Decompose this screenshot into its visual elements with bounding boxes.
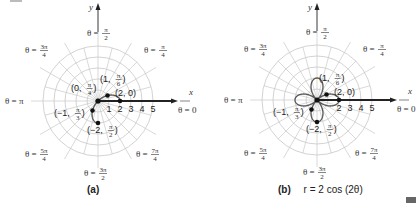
angle-label-3pi-over-2-denominator: 2 bbox=[320, 173, 324, 181]
axis-tick-4: 4 bbox=[139, 104, 144, 114]
point-label-r: (0, bbox=[71, 83, 82, 93]
angle-label-pi-over-4: θ =π4 bbox=[144, 43, 167, 59]
origin-point bbox=[95, 98, 100, 103]
point-label: (2, 0) bbox=[334, 87, 355, 97]
point-label-text: (2, 0) bbox=[334, 87, 355, 97]
angle-label-pi-over-2: θ =π2 bbox=[87, 26, 110, 42]
point-label-r: (−2, bbox=[87, 125, 103, 135]
angle-label-5pi-over-4-denominator: 4 bbox=[42, 155, 46, 163]
point-label-close: ) bbox=[82, 108, 85, 118]
angle-label-7pi-over-4: θ =7π4 bbox=[136, 147, 159, 163]
angle-label-3pi-over-4-numerator: 3π bbox=[40, 43, 48, 51]
point-label-r: (−2, bbox=[306, 124, 322, 134]
point-label-den: 2 bbox=[328, 130, 332, 138]
point-label-num: π bbox=[109, 123, 113, 131]
angle-label-7pi-over-4: θ =7π4 bbox=[355, 146, 378, 162]
angle-label-7pi-over-4-numerator: 7π bbox=[151, 147, 159, 155]
angle-label-7pi-over-4-numerator: 7π bbox=[370, 146, 378, 154]
panel-b-caption-letter: (b) bbox=[278, 184, 291, 195]
point-label-den: 6 bbox=[117, 80, 121, 88]
angle-label-3pi-over-2: θ =3π2 bbox=[303, 165, 326, 181]
point-label-close: ) bbox=[301, 107, 304, 117]
point-label-num: π bbox=[88, 81, 92, 89]
angle-label-pi-over-2-numerator: π bbox=[104, 26, 108, 34]
plotted-point bbox=[337, 98, 342, 103]
point-label-text: (2, 0) bbox=[115, 88, 136, 98]
plotted-point bbox=[90, 108, 95, 113]
angle-label-3pi-over-4-numerator: 3π bbox=[259, 42, 267, 50]
point-label-close: ) bbox=[94, 83, 97, 93]
corner-marker bbox=[406, 197, 416, 203]
point-label-num: π bbox=[336, 71, 340, 79]
angle-label-3pi-over-2-denominator: 2 bbox=[101, 174, 105, 182]
angle-label-5pi-over-4-numerator: 5π bbox=[40, 147, 48, 155]
angle-label-pi-over-4-denominator: 4 bbox=[380, 50, 384, 58]
angle-label-5pi-over-4-numerator: 5π bbox=[259, 146, 267, 154]
point-label: (−2,π2) bbox=[306, 122, 337, 138]
angle-label-7pi-over-4-denominator: 4 bbox=[372, 154, 376, 162]
point-label-den: 3 bbox=[295, 113, 299, 121]
point-label: (−2,π2) bbox=[87, 123, 118, 139]
point-label-r: (1, bbox=[100, 74, 111, 84]
angle-label-5pi-over-4-text: θ = bbox=[25, 149, 37, 159]
y-axis-arrow-icon bbox=[96, 3, 101, 10]
point-label: (1,π6) bbox=[100, 72, 126, 88]
angle-label-pi-over-2-numerator: π bbox=[323, 25, 327, 33]
angle-label-3pi-over-4-denominator: 4 bbox=[261, 50, 265, 58]
polar-axis-arrow-icon bbox=[390, 98, 397, 103]
angle-label-pi: θ = π bbox=[224, 95, 243, 105]
y-axis-arrow-icon bbox=[315, 3, 320, 10]
polar-axis-arrow-icon bbox=[171, 99, 178, 104]
point-label-r: (−1, bbox=[54, 108, 70, 118]
polar-figure: yxθ = 012345θ =π2θ =π4θ =3π4θ = πθ =5π4θ… bbox=[0, 0, 418, 207]
point-label-close: ) bbox=[123, 74, 126, 84]
angle-label-3pi-over-4-text: θ = bbox=[25, 45, 37, 55]
y-axis-label: y bbox=[307, 2, 312, 12]
panel-b-polar-grid: yxθ = 02345θ =π2θ =π4θ =3π4θ = πθ =5π4θ … bbox=[224, 2, 416, 181]
axis-tick-5: 5 bbox=[150, 104, 155, 114]
angle-label-3pi-over-4-text: θ = bbox=[244, 44, 256, 54]
panel-b-caption-equation: r = 2 cos (2θ) bbox=[304, 184, 363, 195]
angle-label-3pi-over-4: θ =3π4 bbox=[25, 43, 48, 59]
angle-label-pi-over-4-text: θ = bbox=[144, 45, 156, 55]
angle-label-3pi-over-4: θ =3π4 bbox=[244, 42, 267, 58]
angle-label-pi-over-2-text: θ = bbox=[306, 27, 318, 37]
angle-label-pi-over-4: θ =π4 bbox=[363, 42, 386, 58]
angle-label-5pi-over-4-denominator: 4 bbox=[261, 154, 265, 162]
angle-label-pi-over-4-denominator: 4 bbox=[161, 51, 165, 59]
angle-label-5pi-over-4: θ =5π4 bbox=[25, 147, 48, 163]
point-label-close: ) bbox=[342, 73, 345, 83]
axis-tick-5: 5 bbox=[369, 103, 374, 113]
angle-label-pi-over-2-text: θ = bbox=[87, 28, 99, 38]
angle-label-pi-over-4-text: θ = bbox=[363, 44, 375, 54]
axis-tick-1: 1 bbox=[106, 104, 111, 114]
angle-label-5pi-over-4: θ =5π4 bbox=[244, 146, 267, 162]
cropped-text-fragment bbox=[10, 0, 22, 2]
axis-tick-3: 3 bbox=[347, 103, 352, 113]
point-label-close: ) bbox=[115, 125, 118, 135]
angle-label-3pi-over-2-text: θ = bbox=[303, 167, 315, 177]
panel-a-polar-grid: yxθ = 012345θ =π2θ =π4θ =3π4θ = πθ =5π4θ… bbox=[5, 2, 197, 182]
point-label-num: π bbox=[328, 122, 332, 130]
angle-label-3pi-over-2-numerator: 3π bbox=[99, 166, 107, 174]
point-label-num: π bbox=[76, 106, 80, 114]
point-label-close: ) bbox=[334, 124, 337, 134]
plotted-point bbox=[105, 93, 110, 98]
angle-label-3pi-over-2-numerator: 3π bbox=[318, 165, 326, 173]
angle-label-pi-over-2-denominator: 2 bbox=[323, 33, 327, 41]
point-label-r: (−1, bbox=[273, 107, 289, 117]
angle-label-pi-over-2: θ =π2 bbox=[306, 25, 329, 41]
plotted-point bbox=[324, 92, 329, 97]
angle-label-7pi-over-4-text: θ = bbox=[136, 149, 148, 159]
plotted-point bbox=[309, 107, 314, 112]
angle-label-3pi-over-2: θ =3π2 bbox=[84, 166, 107, 182]
angle-label-pi: θ = π bbox=[5, 96, 24, 106]
point-label-den: 3 bbox=[76, 114, 80, 122]
angle-label-3pi-over-4-denominator: 4 bbox=[42, 51, 46, 59]
x-axis-label: x bbox=[407, 86, 412, 96]
angle-label-0: θ = 0 bbox=[397, 104, 416, 114]
angle-label-pi-over-2-denominator: 2 bbox=[104, 34, 108, 42]
point-label-den: 6 bbox=[336, 79, 340, 87]
plotted-point bbox=[118, 99, 123, 104]
point-label-den: 4 bbox=[88, 89, 92, 97]
